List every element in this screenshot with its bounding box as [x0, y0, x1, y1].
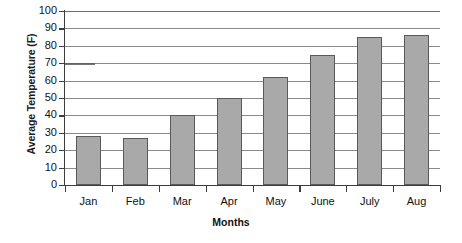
x-axis-category-label: July — [346, 195, 393, 207]
y-axis-tick — [59, 98, 65, 99]
bar — [123, 138, 148, 185]
x-axis-tick — [253, 186, 254, 192]
x-axis-tick — [112, 186, 113, 192]
y-axis-tick — [59, 133, 65, 134]
gridline — [65, 46, 440, 47]
y-axis-tick — [59, 168, 65, 169]
x-axis-title: Months — [0, 216, 462, 228]
x-axis-category-label: May — [253, 195, 300, 207]
y-axis-tick — [59, 46, 65, 47]
gridline-artifact — [65, 63, 95, 65]
y-axis-tick-labels: 0102030405060708090100 — [0, 0, 57, 243]
bar-chart: Average Temperature (F) 0102030405060708… — [0, 0, 462, 243]
y-axis-tick-label: 10 — [7, 162, 57, 173]
y-axis-tick-label: 50 — [7, 92, 57, 103]
x-axis-category-label: Jan — [65, 195, 112, 207]
x-axis-tick — [393, 186, 394, 192]
x-axis-category-label: Apr — [206, 195, 253, 207]
x-axis-tick — [299, 186, 300, 192]
gridline — [65, 63, 440, 64]
x-axis-tick — [159, 186, 160, 192]
x-axis-category-label: Mar — [159, 195, 206, 207]
y-axis-tick — [59, 115, 65, 116]
y-axis-tick — [59, 63, 65, 64]
x-axis-category-label: Feb — [112, 195, 159, 207]
gridline — [65, 11, 440, 12]
bar — [170, 115, 195, 185]
y-axis-tick-label: 20 — [7, 144, 57, 155]
gridline — [65, 150, 440, 151]
y-axis-tick — [59, 150, 65, 151]
x-axis-tick — [65, 186, 66, 192]
x-axis-tick — [346, 186, 347, 192]
gridline — [65, 98, 440, 99]
y-axis-tick-label: 40 — [7, 109, 57, 120]
plot-area — [65, 11, 440, 185]
x-axis-tick — [440, 186, 441, 192]
y-axis-tick — [59, 28, 65, 29]
bar — [217, 98, 242, 185]
bar — [263, 77, 288, 185]
y-axis-tick-label: 30 — [7, 127, 57, 138]
bar — [310, 55, 335, 186]
y-axis-tick-label: 60 — [7, 75, 57, 86]
y-axis-tick-label: 70 — [7, 57, 57, 68]
gridline — [65, 81, 440, 82]
bar — [357, 37, 382, 185]
gridline — [65, 28, 440, 29]
bar — [404, 35, 429, 185]
bar — [76, 136, 101, 185]
gridline — [65, 168, 440, 169]
x-axis-category-label: June — [299, 195, 346, 207]
gridline — [65, 133, 440, 134]
y-axis-tick-label: 80 — [7, 40, 57, 51]
y-axis-tick-label: 0 — [7, 179, 57, 190]
y-axis-tick-label: 90 — [7, 22, 57, 33]
x-axis-tick — [206, 186, 207, 192]
y-axis-tick-label: 100 — [7, 5, 57, 16]
x-axis-category-label: Aug — [393, 195, 440, 207]
y-axis-tick — [59, 11, 65, 12]
gridline — [65, 115, 440, 116]
y-axis-tick — [59, 81, 65, 82]
